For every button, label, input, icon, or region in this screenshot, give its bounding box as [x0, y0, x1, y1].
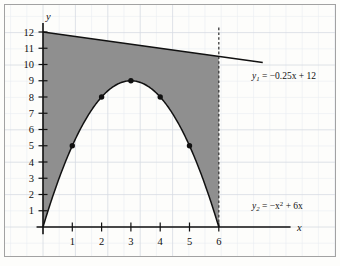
parabola-equation-label: y2 = −x2 + 6x — [251, 200, 303, 213]
parabola-equation-rhs-pre: = −x — [260, 201, 280, 211]
y-tick-label: 11 — [24, 43, 34, 54]
y-tick-label: 8 — [29, 92, 34, 103]
parabola-equation-rhs-post: + 6x — [283, 201, 303, 211]
line-equation-rhs: = −0.25x + 12 — [260, 71, 317, 81]
data-point-marker — [99, 94, 104, 99]
data-point-marker — [187, 143, 192, 148]
data-point-marker — [70, 143, 75, 148]
y-tick-label: 7 — [29, 108, 34, 119]
x-tick-label: 1 — [70, 236, 75, 247]
y-tick-label: 12 — [24, 27, 35, 38]
y-tick-label: 4 — [29, 157, 35, 168]
y-tick-label: 9 — [29, 75, 34, 86]
line-equation-label: y1 = −0.25x + 12 — [251, 71, 316, 82]
y-tick-label: 3 — [29, 173, 34, 184]
x-axis-label: x — [296, 222, 302, 233]
y-axis-label: y — [45, 11, 51, 22]
graph-plot: 123456 123456789101112 x y y1 = −0.25x +… — [0, 0, 340, 266]
y-tick-label: 5 — [29, 140, 34, 151]
y-tick-label: 6 — [29, 124, 34, 135]
y-tick-label: 2 — [29, 189, 34, 200]
x-tick-label: 3 — [128, 236, 133, 247]
y-tick-label: 10 — [24, 59, 35, 70]
data-point-marker — [128, 78, 133, 83]
figure-container: 123456 123456789101112 x y y1 = −0.25x +… — [0, 0, 340, 266]
x-tick-label: 6 — [216, 236, 221, 247]
x-tick-label: 2 — [99, 236, 104, 247]
data-point-marker — [158, 94, 163, 99]
x-tick-label: 5 — [187, 236, 192, 247]
y-tick-label: 1 — [29, 205, 34, 216]
x-tick-label: 4 — [158, 236, 164, 247]
